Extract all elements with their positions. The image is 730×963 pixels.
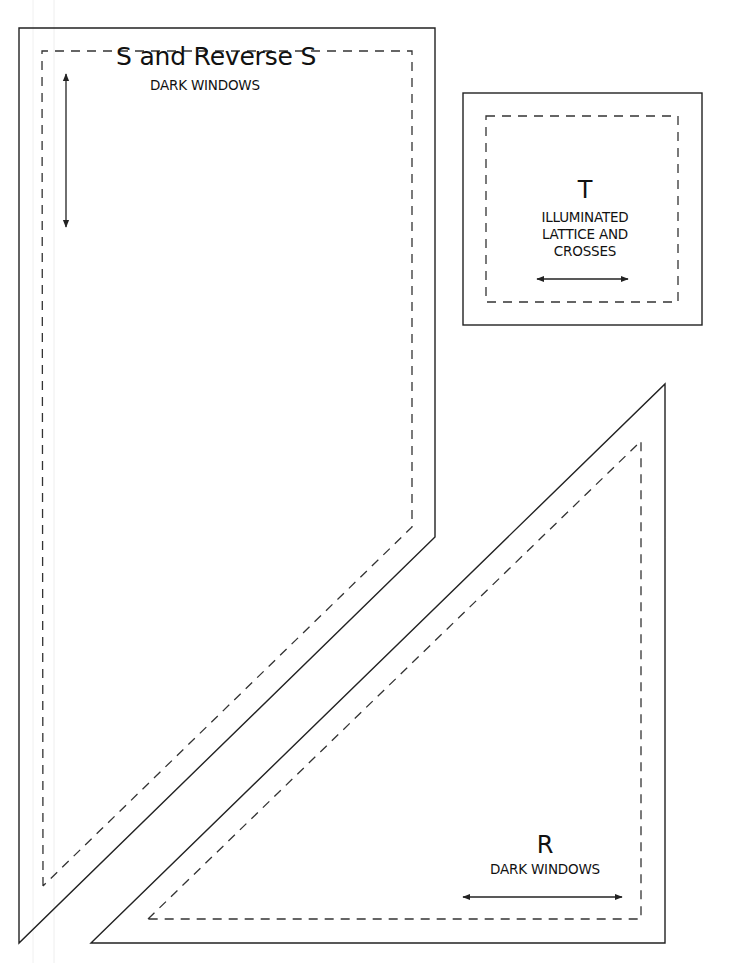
piece-t-subtitle-line: LATTICE AND [500,226,670,243]
piece-s-cut-line [19,28,435,943]
piece-r-cut-line [91,384,665,943]
piece-s [19,28,435,943]
piece-s-subtitle: DARK WINDOWS [150,77,260,93]
piece-t-subtitle-line: CROSSES [500,243,670,260]
piece-t-subtitle-line: ILLUMINATED [500,209,670,226]
piece-t-title: T [560,176,610,204]
pattern-canvas [0,0,730,963]
piece-t-subtitle: ILLUMINATED LATTICE AND CROSSES [500,209,670,260]
piece-r-title: R [520,831,570,859]
piece-s-seam-line [42,51,412,886]
piece-r [91,384,665,943]
piece-r-subtitle: DARK WINDOWS [460,861,630,877]
piece-s-title: S and Reverse S [116,42,316,71]
